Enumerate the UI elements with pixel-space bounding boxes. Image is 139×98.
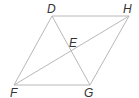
segment-HG [90, 16, 129, 85]
label-G: G [84, 86, 93, 98]
label-F: F [10, 86, 18, 98]
segment-FD [14, 16, 52, 85]
parallelogram-diagram: D H E F G [0, 0, 139, 98]
label-D: D [47, 2, 56, 16]
label-E: E [69, 36, 78, 50]
label-H: H [123, 2, 132, 16]
diagonal-FH [14, 16, 129, 85]
